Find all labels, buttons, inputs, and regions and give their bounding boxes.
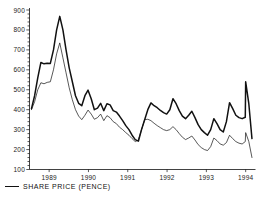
chart-series (31, 16, 251, 157)
y-tick-label: 500 (3, 86, 25, 93)
x-tick-label: 1989 (34, 174, 64, 181)
chart-axes (26, 8, 255, 172)
x-tick-label: 1993 (191, 174, 221, 181)
y-tick-label: 800 (3, 26, 25, 33)
y-tick-label: 900 (3, 7, 25, 14)
x-tick-label: 1994 (231, 174, 261, 181)
x-tick-label: 1992 (152, 174, 182, 181)
chart-plot-area (0, 0, 276, 198)
y-tick-label: 100 (3, 166, 25, 173)
x-tick-label: 1990 (73, 174, 103, 181)
legend-label: SHARE PRICE (PENCE) (23, 183, 111, 190)
chart-legend: SHARE PRICE (PENCE) (5, 183, 111, 190)
share-price-chart: 100200300400500600700800900 198919901991… (0, 0, 276, 198)
y-tick-label: 600 (3, 66, 25, 73)
y-tick-label: 200 (3, 146, 25, 153)
y-tick-label: 400 (3, 106, 25, 113)
legend-line-marker-icon (5, 186, 19, 187)
y-tick-label: 300 (3, 126, 25, 133)
y-tick-label: 700 (3, 46, 25, 53)
x-tick-label: 1991 (113, 174, 143, 181)
